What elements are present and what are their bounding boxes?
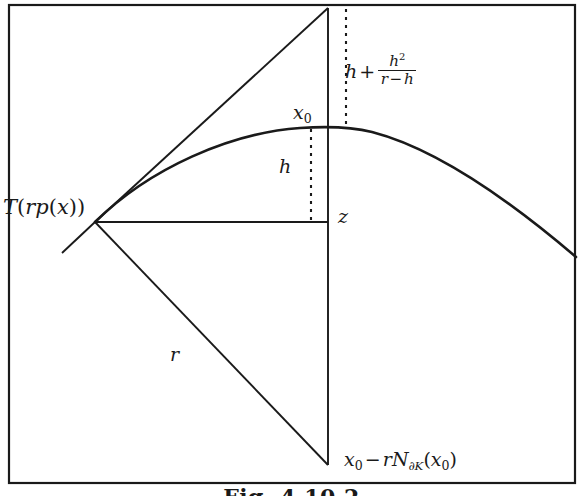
lower-minus: − bbox=[363, 448, 383, 470]
formula-den-minus: − bbox=[388, 70, 404, 88]
tangent-T: T bbox=[3, 195, 17, 219]
lower-N: N bbox=[392, 448, 409, 470]
convex-body-curve bbox=[95, 127, 576, 257]
label-height-formula: h+h2r−h bbox=[345, 52, 417, 88]
label-x0-minus-rn: x0−rN∂K(x0) bbox=[344, 450, 457, 472]
formula-num-exponent: 2 bbox=[399, 51, 405, 62]
x0-upper-base: x bbox=[293, 101, 304, 123]
tangent-x: x bbox=[57, 195, 69, 219]
lower-x: x bbox=[344, 448, 355, 470]
radius-line bbox=[95, 222, 328, 465]
lower-open-paren: ( bbox=[423, 448, 430, 470]
label-z-point: z bbox=[338, 207, 348, 226]
lower-close-paren: ) bbox=[450, 448, 457, 470]
formula-num-h: h bbox=[389, 52, 399, 70]
geometric-diagram bbox=[0, 0, 583, 496]
tangent-open-paren-1: ( bbox=[17, 195, 25, 219]
formula-fraction: h2r−h bbox=[378, 52, 416, 88]
label-tangent-space: T(rp(x)) bbox=[3, 197, 85, 218]
formula-den-h: h bbox=[404, 70, 414, 88]
label-x0-upper: x0 bbox=[293, 103, 312, 125]
lower-x-subscript: 0 bbox=[355, 458, 363, 473]
tangent-line-stub bbox=[62, 222, 95, 253]
label-r-radius: r bbox=[170, 345, 179, 364]
figure-container: T(rp(x)) h+h2r−h x0 h z r x0−rN∂K(x0) Fi… bbox=[0, 0, 583, 496]
tangent-p: p bbox=[35, 195, 48, 219]
tangent-close-paren-1: ) bbox=[77, 195, 85, 219]
lower-x2-subscript: 0 bbox=[442, 458, 450, 473]
label-h-segment: h bbox=[279, 157, 291, 176]
formula-numerator: h2 bbox=[378, 52, 416, 71]
tangent-close-paren-2: ) bbox=[69, 195, 77, 219]
lower-r: r bbox=[383, 448, 392, 470]
figure-border bbox=[9, 5, 575, 483]
lower-x2: x bbox=[431, 448, 442, 470]
x0-upper-subscript: 0 bbox=[304, 111, 312, 126]
tangent-open-paren-2: ( bbox=[49, 195, 57, 219]
tangent-r: r bbox=[25, 195, 35, 219]
formula-plus: + bbox=[357, 60, 377, 82]
formula-denominator: r−h bbox=[378, 71, 416, 88]
formula-den-r: r bbox=[381, 70, 388, 88]
formula-h: h bbox=[345, 60, 357, 82]
figure-caption: Fig. 4.10.2 bbox=[0, 484, 583, 496]
